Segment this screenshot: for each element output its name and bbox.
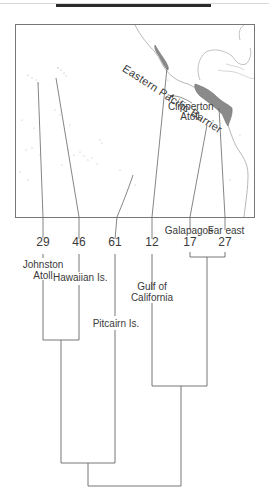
clipperton-label-line2: Atoll [168,111,212,122]
leader-lines [38,68,225,239]
leaf-count-far-east: 27 [213,236,237,249]
leaf-name-far-east: Far east [204,225,248,236]
leaf-name-gulf-line2: California [127,292,177,303]
leaf-count-galapagos: 17 [178,236,202,249]
coastline-caribbean [218,64,254,79]
leaf-name-pitcairn: Pitcairn Is. [92,318,140,329]
leaf-count-johnston: 29 [31,236,55,249]
leaf-name-gulf-line1: Gulf of [127,281,177,292]
leaf-count-hawaiian: 46 [67,236,91,249]
leaf-count-gulf: 12 [140,236,164,249]
coastline-florida [239,25,244,40]
gulf-of-california-region [155,45,169,70]
leaf-name-johnston-line1: Johnston [18,259,68,270]
leaf-count-pitcairn: 61 [103,236,127,249]
leaf-name-hawaiian: Hawaiian Is. [53,272,105,283]
